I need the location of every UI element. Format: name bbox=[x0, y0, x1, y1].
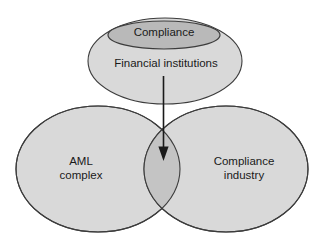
venn-diagram-canvas bbox=[0, 0, 325, 246]
inner-ellipse-compliance bbox=[108, 21, 220, 49]
venn-diagram-figure: Compliance Financial institutions AML co… bbox=[0, 0, 325, 246]
